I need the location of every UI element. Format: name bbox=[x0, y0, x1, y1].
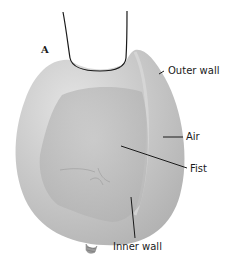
label-outer-wall: Outer wall bbox=[168, 66, 219, 76]
label-fist: Fist bbox=[190, 164, 207, 174]
label-air: Air bbox=[186, 132, 200, 142]
label-inner-wall: Inner wall bbox=[113, 242, 162, 252]
panel-letter: A bbox=[41, 45, 49, 55]
